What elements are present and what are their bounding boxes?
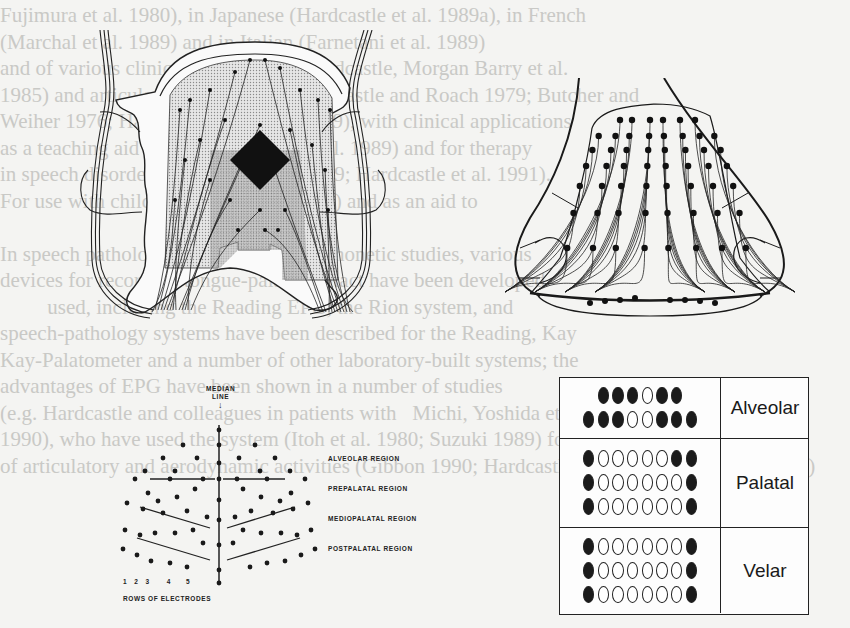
electrode-contact-icon: [583, 586, 595, 603]
epg-row: [560, 384, 720, 408]
median-arrow-icon: ↓: [206, 401, 235, 409]
electrode-contact-icon: [627, 387, 639, 404]
electrode-no-contact-icon: [612, 562, 624, 579]
electrode-no-contact-icon: [598, 450, 610, 467]
epg-zone-grid: [560, 378, 721, 438]
electrode-contact-icon: [686, 411, 698, 428]
electrode-no-contact-icon: [671, 586, 683, 603]
epg-zone-velar: Velar: [560, 527, 808, 613]
epg-zone-alveolar: Alveolar: [560, 378, 808, 438]
electrode-no-contact-icon: [642, 450, 654, 467]
electrode-contact-icon: [583, 562, 595, 579]
background-text-line: Kay-Palatometer and a number of other la…: [0, 347, 850, 374]
mediopalatal-region-label: MEDIOPALATAL REGION: [328, 515, 417, 522]
electrode-contact-icon: [686, 474, 698, 491]
electrode-no-contact-icon: [642, 586, 654, 603]
alveolar-region-label: ALVEOLAR REGION: [328, 455, 400, 462]
row-number: 5: [186, 578, 190, 585]
electrode-no-contact-icon: [627, 538, 639, 555]
electrode-contact-icon: [612, 387, 624, 404]
electrode-contact-icon: [583, 450, 595, 467]
electrode-no-contact-icon: [612, 474, 624, 491]
epg-contact-grid: Alveolar Palatal Velar: [559, 377, 809, 615]
electrode-no-contact-icon: [642, 411, 654, 428]
electrode-no-contact-icon: [671, 538, 683, 555]
row-number: 4: [167, 578, 171, 585]
epg-empty-slot: [583, 384, 595, 408]
panel-b-palate-plate: [480, 78, 820, 323]
electrode-contact-icon: [686, 538, 698, 555]
electrode-no-contact-icon: [598, 538, 610, 555]
electrode-contact-icon: [583, 538, 595, 555]
background-text-line: Fujimura et al. 1980), in Japanese (Hard…: [0, 2, 850, 29]
electrode-no-contact-icon: [627, 586, 639, 603]
epg-row: [560, 559, 720, 583]
electrode-rows-diagram: [115, 385, 445, 625]
row-number: 1: [123, 578, 127, 585]
electrode-no-contact-icon: [612, 538, 624, 555]
artificial-palate-electrodes-illustration: [60, 30, 400, 330]
median-line-label: MEDIAN LINE ↓: [206, 385, 235, 409]
epg-zone-palatal: Palatal: [560, 438, 808, 527]
epg-empty-slot: [686, 384, 698, 408]
electrode-contact-icon: [686, 562, 698, 579]
electrode-contact-icon: [612, 411, 624, 428]
epg-row: [560, 535, 720, 559]
electrode-contact-icon: [686, 586, 698, 603]
row-numbers: 1 2 3 4 5: [123, 578, 213, 585]
epg-row: [560, 408, 720, 432]
electrode-contact-icon: [598, 411, 610, 428]
electrode-no-contact-icon: [612, 586, 624, 603]
electrode-no-contact-icon: [656, 450, 668, 467]
zone-label-alveolar: Alveolar: [722, 378, 808, 438]
epg-zone-grid: [560, 528, 721, 613]
electrode-no-contact-icon: [671, 562, 683, 579]
electrode-no-contact-icon: [627, 562, 639, 579]
electrode-no-contact-icon: [656, 538, 668, 555]
electrode-no-contact-icon: [627, 411, 639, 428]
electrode-no-contact-icon: [671, 498, 683, 515]
row-number: 2: [134, 578, 138, 585]
prepalatal-region-label: PREPALATAL REGION: [328, 485, 408, 492]
zone-label-palatal: Palatal: [722, 439, 808, 527]
epg-row: [560, 495, 720, 519]
epg-row: [560, 583, 720, 607]
median-label-line1: MEDIAN: [206, 385, 235, 393]
electrode-contact-icon: [583, 498, 595, 515]
electrode-no-contact-icon: [627, 474, 639, 491]
electrode-contact-icon: [598, 387, 610, 404]
electrode-no-contact-icon: [642, 387, 654, 404]
electrode-no-contact-icon: [612, 498, 624, 515]
row-number: 3: [145, 578, 149, 585]
electrode-no-contact-icon: [642, 562, 654, 579]
epg-zone-grid: [560, 439, 721, 527]
electrode-no-contact-icon: [642, 474, 654, 491]
electrode-contact-icon: [686, 498, 698, 515]
electrode-no-contact-icon: [598, 498, 610, 515]
electrode-no-contact-icon: [598, 586, 610, 603]
electrode-no-contact-icon: [642, 538, 654, 555]
electrode-no-contact-icon: [598, 474, 610, 491]
panel-c-electrode-regions: MEDIAN LINE ↓ ALVEOLAR REGION PREPALATAL…: [115, 385, 445, 625]
electrode-contact-icon: [671, 387, 683, 404]
electrode-contact-icon: [656, 411, 668, 428]
rows-of-electrodes-caption: ROWS OF ELECTRODES: [123, 595, 211, 602]
zone-label-velar: Velar: [722, 528, 808, 613]
epg-row: [560, 471, 720, 495]
electrode-contact-icon: [583, 474, 595, 491]
electrode-no-contact-icon: [598, 562, 610, 579]
electrode-no-contact-icon: [656, 474, 668, 491]
electrode-contact-icon: [671, 411, 683, 428]
postpalatal-region-label: POSTPALATAL REGION: [328, 545, 413, 552]
electrode-no-contact-icon: [627, 450, 639, 467]
panel-a-artificial-palate: [60, 30, 400, 330]
epg-row: [560, 447, 720, 471]
electrode-contact-icon: [686, 450, 698, 467]
electrode-no-contact-icon: [656, 498, 668, 515]
electrode-no-contact-icon: [612, 450, 624, 467]
electrode-contact-icon: [656, 387, 668, 404]
electrode-no-contact-icon: [656, 562, 668, 579]
electrode-no-contact-icon: [627, 498, 639, 515]
palate-plate-electrode-array-illustration: [480, 78, 820, 323]
electrode-contact-icon: [671, 450, 683, 467]
